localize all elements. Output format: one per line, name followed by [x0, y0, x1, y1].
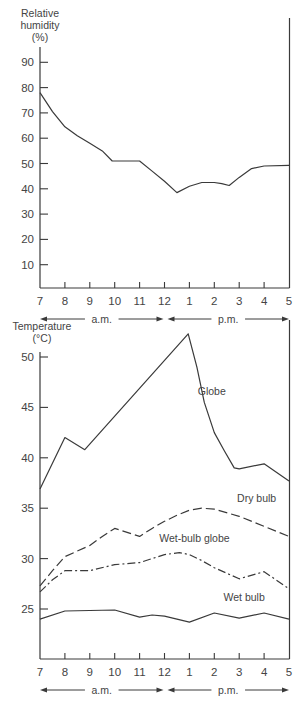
period-label: a.m. — [92, 684, 112, 696]
arrow-left-icon — [40, 688, 47, 693]
axis-title-line: Temperature — [13, 320, 72, 332]
series-label: Dry bulb — [237, 492, 276, 504]
y-tick-label: 45 — [21, 401, 34, 413]
series-line-wet-bulb — [40, 610, 289, 622]
x-tick-label: 3 — [236, 295, 242, 307]
series-line-relative-humidity — [40, 93, 289, 193]
y-tick-label: 30 — [21, 208, 34, 220]
x-tick-label: 9 — [87, 295, 93, 307]
y-tick-label: 10 — [21, 259, 34, 271]
arrow-right-icon — [282, 688, 289, 693]
temperature-x-ticks: 78910111212345 — [37, 653, 292, 678]
x-tick-label: 4 — [261, 666, 268, 678]
x-tick-label: 7 — [37, 295, 43, 307]
x-tick-label: 11 — [134, 666, 146, 678]
axis-title-line: (°C) — [33, 332, 52, 344]
chart-figure: Relativehumidity(%) 102030405060708090 7… — [0, 0, 305, 714]
y-tick-label: 35 — [21, 502, 34, 514]
period-label: p.m. — [218, 313, 238, 325]
x-tick-label: 1 — [186, 666, 192, 678]
humidity-series — [40, 93, 289, 193]
arrow-right-icon — [157, 688, 164, 693]
series-label: Globe — [198, 385, 226, 397]
temperature-axis-title: Temperature(°C) — [13, 320, 72, 344]
x-tick-label: 5 — [286, 295, 292, 307]
x-tick-label: 11 — [134, 295, 146, 307]
x-tick-label: 5 — [286, 666, 292, 678]
temperature-series-labels: GlobeDry bulbWet-bulb globeWet bulb — [159, 385, 276, 603]
humidity-period-arrows: a.m.p.m. — [40, 313, 289, 325]
x-tick-label: 8 — [62, 295, 68, 307]
temperature-chart: Temperature(°C) 253035404550 78910111212… — [13, 320, 293, 696]
humidity-y-ticks: 102030405060708090 — [21, 56, 48, 270]
x-tick-label: 2 — [211, 295, 217, 307]
x-tick-label: 1 — [186, 295, 192, 307]
temperature-axes — [40, 320, 290, 659]
y-tick-label: 80 — [21, 82, 34, 94]
series-line-globe — [40, 334, 289, 489]
y-tick-label: 50 — [21, 158, 34, 170]
arrow-right-icon — [282, 317, 289, 322]
temperature-period-arrows: a.m.p.m. — [40, 684, 289, 696]
x-tick-label: 3 — [236, 666, 242, 678]
axis-title-line: (%) — [32, 31, 48, 43]
humidity-chart: Relativehumidity(%) 102030405060708090 7… — [20, 7, 292, 325]
y-tick-label: 50 — [21, 351, 34, 363]
period-label: a.m. — [92, 313, 112, 325]
series-line-dry-bulb — [40, 508, 289, 586]
x-tick-label: 8 — [62, 666, 68, 678]
axis-title-line: humidity — [20, 19, 60, 31]
x-tick-label: 9 — [87, 666, 93, 678]
y-tick-label: 70 — [21, 107, 34, 119]
y-tick-label: 20 — [21, 233, 34, 245]
axis-title-line: Relative — [21, 7, 59, 19]
arrow-right-icon — [157, 317, 164, 322]
x-tick-label: 10 — [108, 666, 121, 678]
temperature-series — [40, 334, 289, 622]
humidity-axes — [40, 18, 290, 288]
series-label: Wet bulb — [224, 591, 265, 603]
y-tick-label: 40 — [21, 183, 34, 195]
x-tick-label: 2 — [211, 666, 217, 678]
y-tick-label: 40 — [21, 452, 34, 464]
temperature-y-ticks: 253035404550 — [21, 351, 48, 615]
arrow-left-icon — [168, 317, 175, 322]
y-tick-label: 60 — [21, 132, 34, 144]
x-tick-label: 12 — [158, 295, 171, 307]
x-tick-label: 12 — [158, 666, 171, 678]
series-label: Wet-bulb globe — [159, 532, 230, 544]
y-tick-label: 25 — [21, 603, 34, 615]
arrow-left-icon — [168, 688, 175, 693]
y-tick-label: 30 — [21, 553, 34, 565]
humidity-axis-title: Relativehumidity(%) — [20, 7, 60, 43]
y-tick-label: 90 — [21, 56, 34, 68]
series-line-wet-bulb-globe — [40, 553, 289, 592]
x-tick-label: 10 — [108, 295, 121, 307]
x-tick-label: 7 — [37, 666, 43, 678]
period-label: p.m. — [218, 684, 238, 696]
x-tick-label: 4 — [261, 295, 268, 307]
humidity-x-ticks: 78910111212345 — [37, 282, 292, 307]
